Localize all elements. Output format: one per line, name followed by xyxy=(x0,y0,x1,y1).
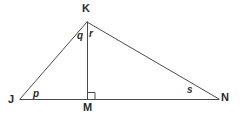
vertex-label-j: J xyxy=(8,94,14,105)
angle-label-r: r xyxy=(89,29,93,39)
angle-label-s: s xyxy=(187,85,193,95)
geometry-figure: K J N M p q r s xyxy=(0,0,247,121)
angle-label-q: q xyxy=(77,31,83,41)
segment-kn xyxy=(87,22,219,99)
right-angle-marker-icon xyxy=(88,93,95,100)
vertex-label-n: N xyxy=(221,92,229,103)
angle-label-p: p xyxy=(33,89,39,99)
triangle-diagram-canvas xyxy=(0,0,247,121)
vertex-label-m: M xyxy=(83,102,92,113)
vertex-label-k: K xyxy=(82,3,90,14)
